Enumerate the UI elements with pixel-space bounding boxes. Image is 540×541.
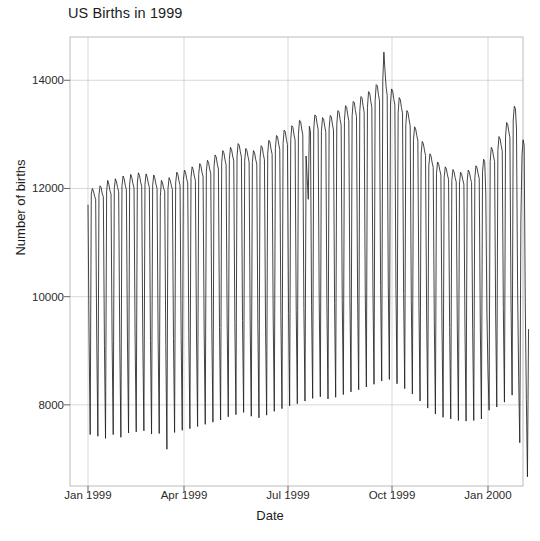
chart-figure: US Births in 1999 Number of births Date … <box>0 0 540 541</box>
plot-frame <box>70 37 523 486</box>
plot-area <box>0 0 540 541</box>
data-series-line <box>88 52 529 477</box>
